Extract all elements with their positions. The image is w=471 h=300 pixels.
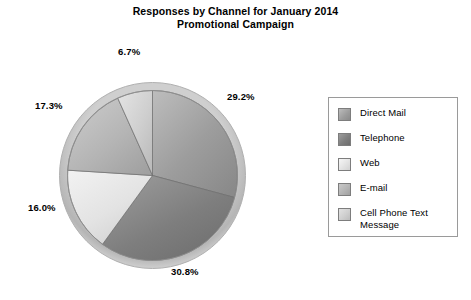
legend-item-email[interactable]: E-mail (338, 182, 451, 196)
legend-item-web[interactable]: Web (338, 157, 451, 171)
chart-title: Responses by Channel for January 2014 Pr… (0, 5, 471, 30)
pie-label-cell-phone-text: 6.7% (118, 46, 140, 57)
legend-swatch-cell-phone-text (338, 208, 351, 221)
pie-chart (59, 82, 246, 269)
legend-label-web: Web (360, 157, 380, 169)
legend-label-cell-phone-text: Cell Phone Text Message (360, 207, 451, 230)
pie-svg (59, 82, 246, 269)
pie-label-direct-mail: 29.2% (227, 91, 255, 102)
pie-label-email: 17.3% (35, 100, 63, 111)
legend: Direct Mail Telephone Web E-mail Cell Ph… (328, 97, 458, 237)
chart-title-line-2: Promotional Campaign (0, 18, 471, 31)
legend-item-telephone[interactable]: Telephone (338, 132, 451, 146)
chart-title-line-1: Responses by Channel for January 2014 (0, 5, 471, 18)
legend-swatch-web (338, 158, 351, 171)
legend-swatch-telephone (338, 133, 351, 146)
legend-swatch-direct-mail (338, 108, 351, 121)
legend-list: Direct Mail Telephone Web E-mail Cell Ph… (338, 107, 451, 230)
legend-label-direct-mail: Direct Mail (360, 107, 406, 119)
chart-canvas: Responses by Channel for January 2014 Pr… (0, 0, 471, 300)
pie-label-web: 16.0% (28, 202, 56, 213)
legend-label-telephone: Telephone (360, 132, 405, 144)
legend-swatch-email (338, 183, 351, 196)
legend-label-email: E-mail (360, 182, 388, 194)
legend-item-cell-phone-text[interactable]: Cell Phone Text Message (338, 207, 451, 230)
pie-label-telephone: 30.8% (171, 266, 199, 277)
legend-item-direct-mail[interactable]: Direct Mail (338, 107, 451, 121)
